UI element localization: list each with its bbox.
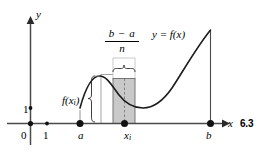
point-xi-subscript: i	[129, 133, 131, 142]
tick-one-x-dot	[45, 122, 49, 126]
point-xi-dot	[121, 120, 128, 127]
tick-one-y-dot	[29, 106, 33, 110]
height-fxi-label: f(xi)	[62, 95, 80, 107]
x-axis-label: x	[228, 118, 233, 129]
height-fxi-base: f(x	[62, 94, 74, 106]
origin-dot	[28, 121, 33, 126]
y-tick-one-label: 1	[23, 104, 29, 115]
y-axis-arrowhead	[27, 16, 35, 24]
riemann-sum-figure: y x 0 1 1 a xi b f(xi) y = f(x) b − a n …	[0, 0, 271, 155]
point-a-dot	[77, 120, 84, 127]
origin-tick-label: 0	[21, 130, 27, 141]
point-a-label: a	[78, 130, 84, 141]
fraction-numerator: b − a	[99, 28, 145, 40]
height-fxi-close: )	[76, 94, 80, 106]
y-axis-label: y	[36, 9, 41, 20]
figure-number-label: 6.3	[240, 119, 253, 129]
x-tick-one-label: 1	[43, 130, 49, 141]
figure-canvas	[0, 0, 271, 155]
curve-equation-label: y = f(x)	[152, 29, 185, 40]
point-b-dot	[207, 120, 214, 127]
subinterval-width-fraction: b − a n	[99, 28, 145, 54]
point-xi-label: xi	[124, 130, 131, 142]
fraction-denominator: n	[99, 43, 145, 55]
point-b-label: b	[206, 130, 212, 141]
